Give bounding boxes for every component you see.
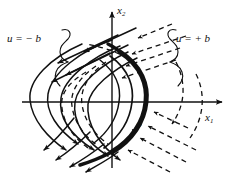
trajectory-group-u-neg (30, 28, 137, 172)
label-point-p: P (136, 122, 142, 131)
phase-plane-svg (0, 0, 240, 181)
axis-label-x2: x2 (117, 5, 125, 18)
label-u-positive: u = + b (176, 33, 210, 44)
axis-label-x1-sub: 1 (210, 117, 213, 124)
label-u-negative: u = − b (7, 33, 41, 44)
axis-label-x1: x1 (205, 112, 213, 125)
figure-canvas: u = − b u = + b x2 x1 P (0, 0, 240, 181)
point-p-marker (132, 129, 134, 131)
axis-label-x2-sub: 2 (122, 10, 125, 17)
